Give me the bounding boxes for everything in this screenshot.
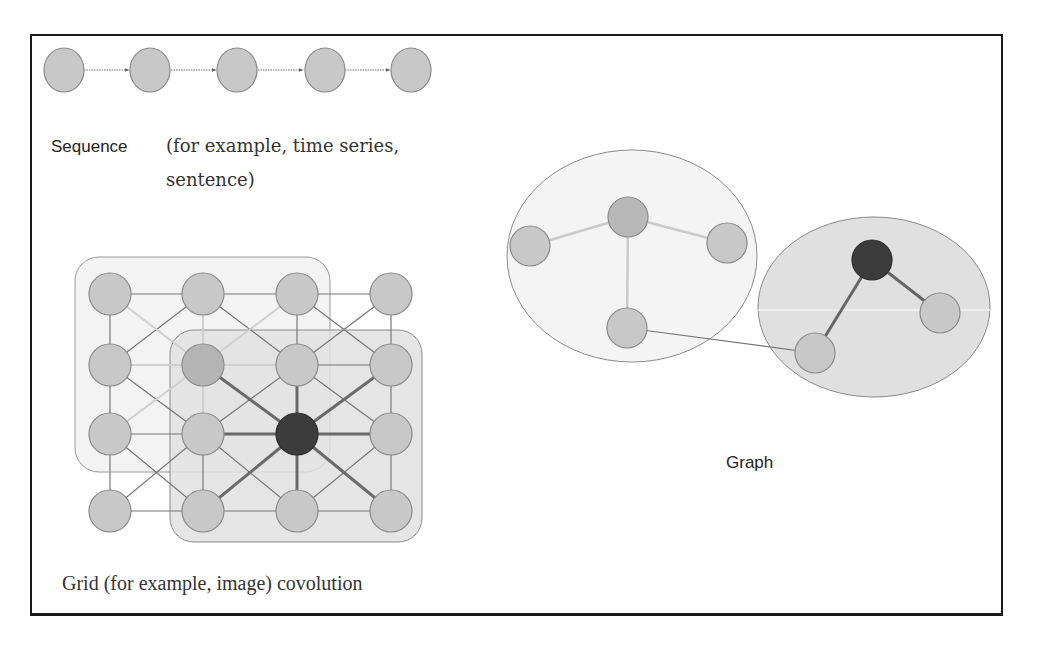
graph-focus-node [852, 240, 892, 280]
grid-node [182, 413, 224, 455]
grid-diagram: Grid (for example, image) covolution [62, 257, 422, 595]
graph-label: Graph [726, 453, 773, 472]
sequence-label: Sequence [51, 137, 128, 156]
sequence-node [130, 48, 170, 92]
grid-node [182, 344, 224, 386]
grid-node [89, 413, 131, 455]
graph-node [707, 223, 747, 263]
graph-node [607, 308, 647, 348]
grid-node [89, 490, 131, 532]
sequence-diagram: Sequence (for example, time series, sent… [44, 48, 431, 190]
grid-node [89, 344, 131, 386]
sequence-node [217, 48, 257, 92]
grid-node [276, 344, 318, 386]
grid-node [276, 490, 318, 532]
grid-node [182, 490, 224, 532]
graph-node [510, 226, 550, 266]
grid-node [276, 273, 318, 315]
grid-node [182, 273, 224, 315]
sequence-node [44, 48, 84, 92]
graph-node [608, 197, 648, 237]
grid-focus-node [276, 413, 318, 455]
sequence-label-paren-1: (for example, time series, [166, 135, 399, 156]
sequence-node [305, 48, 345, 92]
grid-node [370, 344, 412, 386]
graph-node [920, 293, 960, 333]
grid-node [370, 490, 412, 532]
sequence-node [391, 48, 431, 92]
grid-node [370, 273, 412, 315]
grid-node [89, 273, 131, 315]
sequence-label-paren-2: sentence) [166, 169, 255, 190]
diagram-canvas: Sequence (for example, time series, sent… [0, 0, 1057, 652]
graph-diagram: Graph [507, 150, 990, 472]
grid-node [370, 413, 412, 455]
grid-label: Grid (for example, image) covolution [62, 572, 362, 595]
graph-node [795, 333, 835, 373]
